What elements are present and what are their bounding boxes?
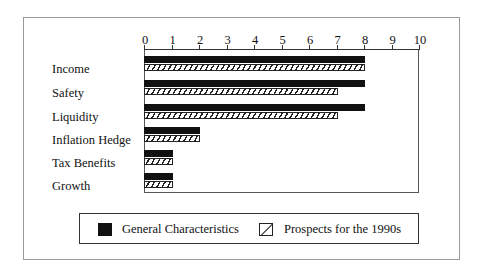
bar-prospects-1990s bbox=[144, 64, 365, 71]
bar-prospects-1990s bbox=[144, 135, 200, 142]
legend-label-prospects: Prospects for the 1990s bbox=[284, 222, 401, 236]
legend: General Characteristics Prospects for th… bbox=[79, 213, 419, 244]
category-label: Inflation Hedge bbox=[52, 133, 131, 147]
bar-prospects-1990s bbox=[144, 181, 173, 188]
bar-general-characteristics bbox=[144, 56, 365, 63]
plot-area bbox=[144, 50, 419, 193]
bar-general-characteristics bbox=[144, 127, 200, 134]
x-tick-label: 7 bbox=[328, 34, 348, 46]
x-tick-label: 1 bbox=[163, 34, 183, 46]
bar-general-characteristics bbox=[144, 104, 365, 111]
category-label: Income bbox=[52, 62, 89, 76]
category-label: Safety bbox=[52, 86, 84, 100]
bar-general-characteristics bbox=[144, 80, 365, 87]
bar-prospects-1990s bbox=[144, 112, 338, 119]
x-tick-label: 0 bbox=[135, 34, 155, 46]
x-tick-label: 10 bbox=[410, 34, 430, 46]
x-tick-label: 5 bbox=[273, 34, 293, 46]
legend-swatch-hatched-icon bbox=[259, 223, 273, 236]
category-label: Growth bbox=[52, 179, 90, 193]
x-tick-label: 2 bbox=[190, 34, 210, 46]
x-tick-label: 3 bbox=[218, 34, 238, 46]
x-tick-label: 9 bbox=[383, 34, 403, 46]
category-label: Liquidity bbox=[52, 110, 99, 124]
bar-prospects-1990s bbox=[144, 88, 338, 95]
legend-swatch-solid-icon bbox=[98, 223, 112, 236]
bar-general-characteristics bbox=[144, 150, 173, 157]
x-tick-label: 6 bbox=[300, 34, 320, 46]
bar-prospects-1990s bbox=[144, 158, 173, 165]
x-tick-label: 8 bbox=[355, 34, 375, 46]
category-label: Tax Benefits bbox=[52, 156, 115, 170]
x-tick-label: 4 bbox=[245, 34, 265, 46]
bar-general-characteristics bbox=[144, 173, 173, 180]
legend-label-general: General Characteristics bbox=[122, 222, 239, 236]
